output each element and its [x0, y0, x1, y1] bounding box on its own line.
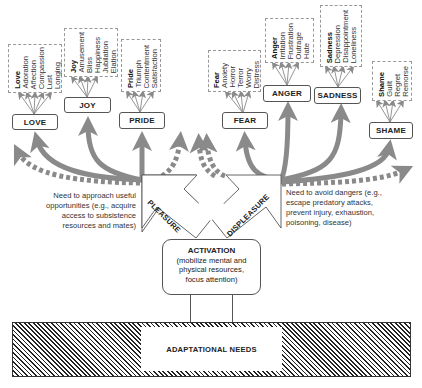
avoid-line-4: poisoning, disease)	[286, 218, 416, 228]
word-box-pride: Pride Triumph Contentment Satisfaction	[121, 39, 161, 92]
emotion-box-joy: JOY	[64, 97, 111, 113]
approach-line-4: resources and mates)	[30, 221, 136, 231]
emotion-box-anger: ANGER	[263, 85, 311, 102]
approach-line-3: access to subsistence	[30, 211, 136, 221]
word-box-joy: Joy Amusement Bliss Happiness Jubilation…	[64, 28, 118, 77]
approach-line-1: Need to approach useful	[30, 191, 136, 201]
adaptational-needs-label: ADAPTATIONAL NEEDS	[141, 327, 282, 371]
avoid-line-2: escape predatory attacks,	[286, 198, 416, 208]
word-box-sadness: Sadness Depression Disappointment Loneli…	[320, 5, 362, 67]
word-hate: Hate	[302, 43, 311, 59]
activation-title: ACTIVATION	[163, 246, 260, 256]
avoid-line-1: Need to avoid dangers (e.g.,	[286, 188, 416, 198]
avoid-line-3: prevent injury, exhaustion,	[286, 208, 416, 218]
word-box-anger: Anger Irritation Frustration Outrage Hat…	[265, 18, 314, 63]
word-loneliness: Loneliness	[349, 27, 358, 63]
emotion-box-pride: PRIDE	[119, 112, 165, 129]
approach-note: Need to approach useful opportunities (e…	[30, 191, 136, 231]
word-elation: Elation	[109, 50, 118, 73]
word-satisfaction: Satisfaction	[150, 49, 159, 88]
emotion-box-shame: SHAME	[369, 122, 413, 139]
word-remorse: Remorse	[401, 66, 410, 97]
word-box-love: Love Adoration Affection Compassion Lust…	[8, 44, 62, 93]
avoid-note: Need to avoid dangers (e.g., escape pred…	[286, 188, 416, 228]
activation-line-2: physical resources,	[163, 265, 260, 275]
stem-left	[190, 295, 191, 323]
word-longing: Longing	[53, 62, 62, 89]
approach-line-2: opportunities (e.g., acquire	[30, 201, 136, 211]
emotion-box-love: LOVE	[12, 114, 58, 130]
activation-line-3: focus attention)	[163, 275, 260, 285]
stem-right	[232, 295, 233, 323]
word-distress: Distress	[252, 61, 261, 88]
word-box-shame: Shame Guilt Regret Remorse	[372, 61, 412, 101]
emotion-box-fear: FEAR	[222, 112, 268, 129]
activation-box: ACTIVATION (mobilize mental and physical…	[162, 239, 261, 295]
activation-line-1: (mobilize mental and	[163, 256, 260, 266]
word-box-fear: Fear Anxiety Horror Terror Worry Distres…	[208, 50, 261, 92]
emotion-box-sadness: SADNESS	[314, 87, 361, 104]
thick-arrows-pleasure	[37, 125, 142, 180]
